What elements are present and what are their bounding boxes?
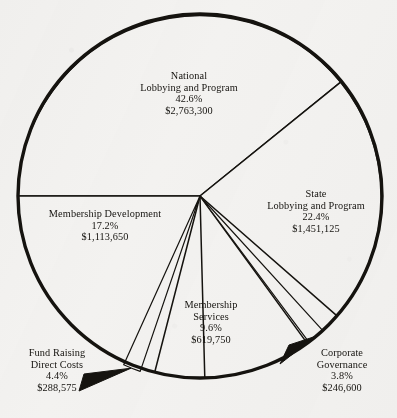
- slice-label-membership-services-line1: Membership: [160, 299, 262, 311]
- slice-label-state-line2: Lobbying and Program: [252, 200, 380, 212]
- slice-label-corporate-governance-line2: Governance: [292, 359, 392, 371]
- slice-label-corporate-governance: Corporate Governance 3.8% $246,600: [292, 347, 392, 394]
- slice-label-fund-raising-line1: Fund Raising: [4, 347, 110, 359]
- slice-label-membership-development-amount: $1,113,650: [21, 231, 189, 243]
- slice-label-fund-raising-line2: Direct Costs: [4, 359, 110, 371]
- slice-label-fund-raising: Fund Raising Direct Costs 4.4% $288,575: [4, 347, 110, 394]
- slice-label-membership-development-line1: Membership Development: [21, 208, 189, 220]
- slice-label-membership-development: Membership Development 17.2% $1,113,650: [21, 208, 189, 243]
- slice-label-membership-development-percent: 17.2%: [21, 220, 189, 232]
- slice-label-national-amount: $2,763,300: [111, 105, 267, 117]
- slice-label-state: State Lobbying and Program 22.4% $1,451,…: [252, 188, 380, 235]
- slice-label-fund-raising-percent: 4.4%: [4, 370, 110, 382]
- slice-label-corporate-governance-percent: 3.8%: [292, 370, 392, 382]
- slice-label-membership-services: Membership Services 9.6% $619,750: [160, 299, 262, 346]
- slice-label-national-line2: Lobbying and Program: [111, 82, 267, 94]
- slice-label-membership-services-percent: 9.6%: [160, 322, 262, 334]
- pie-chart-figure: National Lobbying and Program 42.6% $2,7…: [0, 0, 397, 418]
- slice-label-national-line1: National: [111, 70, 267, 82]
- slice-label-membership-services-amount: $619,750: [160, 334, 262, 346]
- slice-label-corporate-governance-line1: Corporate: [292, 347, 392, 359]
- slice-label-corporate-governance-amount: $246,600: [292, 382, 392, 394]
- slice-label-national: National Lobbying and Program 42.6% $2,7…: [111, 70, 267, 117]
- slice-label-fund-raising-amount: $288,575: [4, 382, 110, 394]
- slice-label-national-percent: 42.6%: [111, 93, 267, 105]
- slice-label-state-percent: 22.4%: [252, 211, 380, 223]
- slice-label-membership-services-line2: Services: [160, 311, 262, 323]
- slice-label-state-amount: $1,451,125: [252, 223, 380, 235]
- slice-label-state-line1: State: [252, 188, 380, 200]
